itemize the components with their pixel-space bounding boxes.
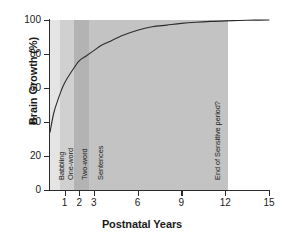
y-tick-label: 0: [1, 185, 41, 195]
x-tick-mark: [269, 191, 270, 196]
x-axis-line: [49, 190, 270, 191]
y-tick-mark: [44, 88, 49, 89]
x-tick-mark: [94, 191, 95, 196]
x-tick-label: 12: [210, 198, 240, 208]
y-tick-mark: [44, 122, 49, 123]
y-axis-line: [49, 19, 50, 191]
x-tick-label: 9: [166, 198, 196, 208]
stage-band-label: Two-word: [80, 148, 89, 180]
y-tick-mark: [44, 20, 49, 21]
stage-band-label: Babbling: [57, 152, 66, 180]
x-tick-mark: [79, 191, 80, 196]
x-tick-label: 3: [79, 198, 109, 208]
brain-growth-chart: 100806040200 123691215 BabblingOne-wordT…: [0, 0, 284, 242]
x-tick-mark: [225, 191, 226, 196]
x-tick-mark: [181, 191, 182, 196]
y-tick-mark: [44, 156, 49, 157]
stage-band-label: Sentences: [96, 146, 105, 180]
y-axis-title: Brain Growth (%): [27, 1, 39, 161]
stage-band: [89, 20, 228, 190]
x-tick-mark: [138, 191, 139, 196]
x-axis-title: Postnatal Years: [0, 218, 284, 230]
stage-band-label: End of Sensitive period?: [213, 101, 222, 180]
y-tick-mark: [44, 54, 49, 55]
x-tick-label: 6: [123, 198, 153, 208]
x-tick-mark: [65, 191, 66, 196]
x-tick-label: 15: [254, 198, 284, 208]
stage-band-label: One-word: [66, 148, 75, 180]
y-tick-mark: [44, 190, 49, 191]
